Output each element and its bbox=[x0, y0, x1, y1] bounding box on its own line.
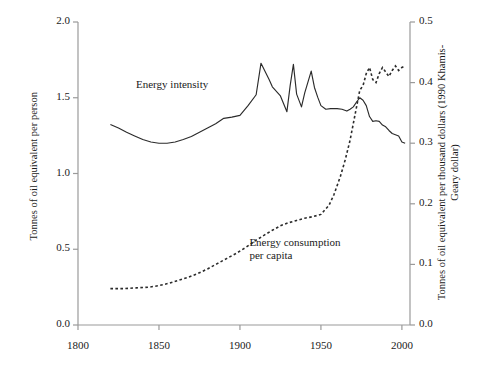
left-axis-ticks bbox=[73, 22, 78, 325]
x-tick-label: 1900 bbox=[216, 339, 264, 351]
x-tick-label: 2000 bbox=[378, 339, 426, 351]
chart-plot-area bbox=[0, 0, 480, 380]
y-tick-label-right: 0.0 bbox=[419, 317, 453, 329]
y-tick-label-right: 0.3 bbox=[419, 135, 453, 147]
annotation-energy-consumption: Energy consumption per capita bbox=[249, 236, 340, 262]
x-tick-label: 1950 bbox=[297, 339, 345, 351]
y-tick-label-right: 0.2 bbox=[419, 196, 453, 208]
y-tick-label-right: 0.4 bbox=[419, 75, 453, 87]
y-tick-label-left: 1.0 bbox=[36, 166, 70, 178]
y-tick-label-left: 1.5 bbox=[36, 90, 70, 102]
annotation-energy-intensity: Energy intensity bbox=[136, 78, 208, 91]
y-tick-label-left: 0.5 bbox=[36, 241, 70, 253]
series-line-energy-intensity bbox=[110, 63, 405, 143]
y-tick-label-right: 0.5 bbox=[419, 14, 453, 26]
x-tick-label: 1850 bbox=[135, 339, 183, 351]
y-tick-label-left: 2.0 bbox=[36, 14, 70, 26]
chart-figure: Tonnes of oil equivalent per person Tonn… bbox=[0, 0, 480, 380]
right-axis-ticks bbox=[410, 22, 415, 325]
x-tick-label: 1800 bbox=[54, 339, 102, 351]
y-tick-label-right: 0.1 bbox=[419, 256, 453, 268]
x-axis-ticks bbox=[78, 325, 402, 330]
y-tick-label-left: 0.0 bbox=[36, 317, 70, 329]
